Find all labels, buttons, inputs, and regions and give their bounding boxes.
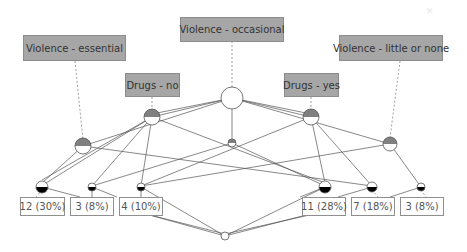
node-drugs-no[interactable] [144,109,160,125]
node-object-6[interactable] [417,183,425,191]
node-object-1[interactable] [36,181,48,193]
attribute-label-violence-little-or-none[interactable]: Violence - little or none [339,35,443,61]
object-label-2[interactable]: 3 (8%) [70,197,114,216]
node-violence-essential[interactable] [75,138,91,154]
lattice-nodes [36,87,425,240]
object-label-4[interactable]: 11 (28%) [302,197,346,216]
node-drugs-yes[interactable] [303,109,319,125]
object-label-3[interactable]: 4 (10%) [119,197,163,216]
object-label-6[interactable]: 3 (8%) [400,197,444,216]
attribute-label-drugs-yes[interactable]: Drugs - yes [284,73,339,97]
attribute-label-violence-essential[interactable]: Violence - essential [23,35,126,61]
node-object-4[interactable] [319,181,331,193]
node-violence-little[interactable] [383,137,397,151]
node-top[interactable] [221,87,243,109]
close-icon[interactable]: ✕ [426,6,434,16]
object-label-1[interactable]: 12 (30%) [20,197,65,216]
node-object-2[interactable] [88,183,96,191]
node-bottom[interactable] [221,232,229,240]
attribute-label-violence-occasional[interactable]: Violence - occasional [180,17,284,42]
label-connectors [36,41,426,197]
node-object-3[interactable] [137,183,145,191]
node-violence-occasional[interactable] [228,139,236,147]
attribute-label-drugs-no[interactable]: Drugs - no [125,73,180,97]
object-label-5[interactable]: 7 (18%) [351,197,395,216]
node-object-5[interactable] [367,182,377,192]
